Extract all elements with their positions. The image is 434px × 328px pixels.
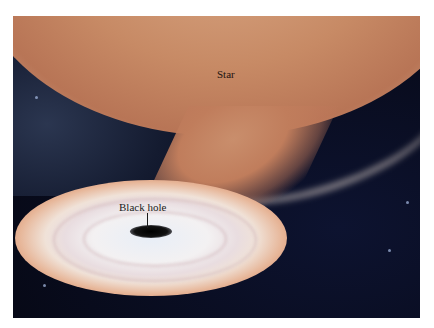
illustration-frame: Star Black hole (13, 16, 420, 318)
star-speck (388, 249, 391, 252)
black-hole (130, 225, 172, 238)
star-speck (43, 284, 46, 287)
disk-ring-inner (83, 211, 227, 267)
star-speck (406, 201, 409, 204)
black-hole-label: Black hole (119, 201, 166, 213)
star-label: Star (217, 68, 235, 80)
star-speck (35, 96, 38, 99)
black-hole-pointer-line (147, 213, 148, 228)
